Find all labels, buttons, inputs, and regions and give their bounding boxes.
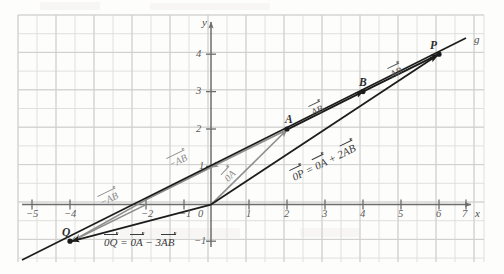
x-tick-label-1: 1 [246, 208, 251, 219]
x-tick-label--5: −5 [26, 208, 38, 219]
point-label-A: A [285, 113, 293, 125]
x-tick-label--2: −2 [141, 208, 153, 219]
point-dot-A [284, 126, 289, 131]
x-tick-label-4: 4 [360, 208, 365, 219]
x-tick-label-2: 2 [284, 208, 289, 219]
y-tick-label-2: 2 [196, 123, 201, 134]
point-label-Q: Q [62, 226, 70, 238]
line-label-g: g [474, 33, 480, 45]
equation-oq-oa: 0A [130, 236, 142, 248]
equation-oq-eq: = [117, 236, 130, 248]
y-tick-label-4: 4 [196, 48, 201, 59]
grid-unit-lines [18, 15, 484, 262]
equation-oq-lhs: 0Q [104, 236, 117, 248]
x-tick-label--1: −1 [179, 208, 191, 219]
y-tick-label-1: 1 [199, 160, 204, 171]
point-dot-Q [67, 239, 72, 244]
x-tick-label-5: 5 [398, 208, 403, 219]
x-tick-label--4: −4 [64, 208, 76, 219]
diagram-canvas: −5 −4 −2 −1 1 2 3 4 5 6 7 4 3 2 1 −1 0 x… [0, 0, 504, 274]
equation-oq: 0Q = 0A − 3AB [104, 236, 175, 248]
equation-oq-minus: − 3 [143, 236, 161, 248]
point-label-B: B [359, 76, 367, 88]
x-tick-label-3: 3 [322, 208, 327, 219]
point-label-P: P [430, 39, 437, 51]
equation-oq-ab: AB [161, 236, 174, 248]
origin-label: 0 [198, 208, 203, 219]
y-axis-label: y [202, 16, 207, 28]
x-axis-label: x [475, 207, 480, 219]
diagram-svg [0, 0, 504, 274]
x-tick-label-6: 6 [436, 208, 441, 219]
y-tick-label--1: −1 [194, 235, 206, 246]
point-dot-P [436, 52, 441, 57]
vector-neg-ab-chain [70, 130, 287, 242]
point-dot-B [360, 89, 365, 94]
x-tick-label-7: 7 [462, 208, 467, 219]
vector-oa [211, 130, 287, 205]
y-tick-label-3: 3 [196, 85, 201, 96]
